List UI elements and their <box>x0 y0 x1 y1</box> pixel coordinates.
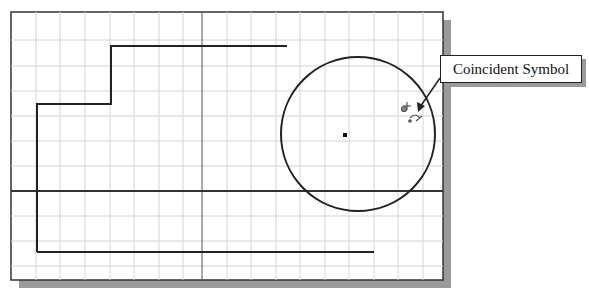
callout-label: Coincident Symbol <box>440 55 582 83</box>
sketch-canvas[interactable] <box>0 0 589 298</box>
circle-center-point <box>343 133 347 137</box>
